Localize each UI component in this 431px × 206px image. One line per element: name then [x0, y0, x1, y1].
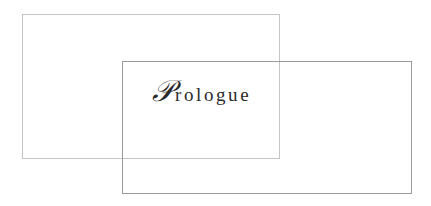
title-initial: 𝒫	[152, 73, 175, 108]
title-heading: 𝒫rologue	[152, 76, 251, 108]
title-rest: rologue	[175, 84, 251, 105]
